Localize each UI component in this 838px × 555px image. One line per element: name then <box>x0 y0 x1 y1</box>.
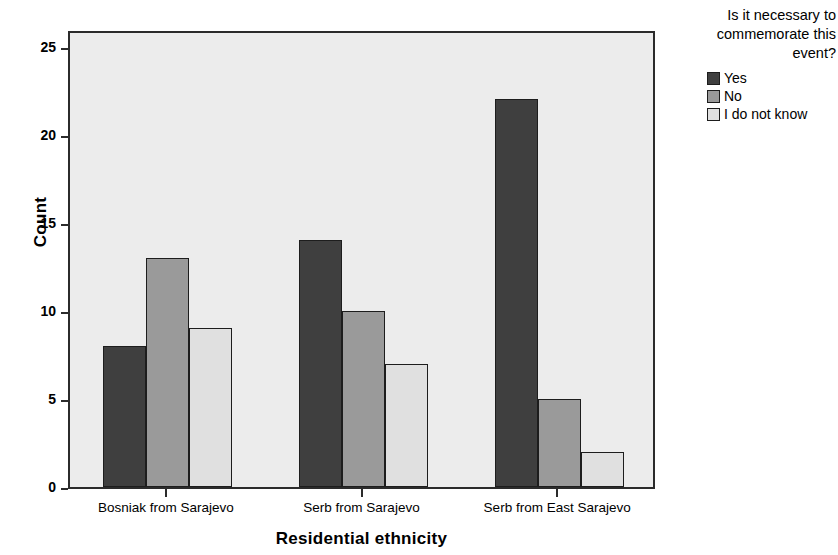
legend-items: YesNoI do not know <box>672 69 838 123</box>
legend-swatch-icon <box>707 72 720 85</box>
y-axis-tick-label: 0 <box>48 479 56 495</box>
bar <box>146 258 189 487</box>
legend-title-line: Is it necessary to <box>672 6 836 25</box>
x-axis-tick-label: Serb from Sarajevo <box>303 500 419 515</box>
y-axis-tick-label: 25 <box>40 39 56 55</box>
legend-item-label: Yes <box>724 70 747 86</box>
y-axis-tick-mark <box>61 312 68 314</box>
bar <box>385 364 428 487</box>
legend-item: No <box>707 87 838 105</box>
legend-item: Yes <box>707 69 838 87</box>
y-axis-tick-label: 10 <box>40 303 56 319</box>
legend-title: Is it necessary tocommemorate thisevent? <box>672 6 838 63</box>
legend-item-label: No <box>724 88 742 104</box>
x-axis-tick-label: Bosniak from Sarajevo <box>98 500 234 515</box>
legend-swatch-icon <box>707 108 720 121</box>
x-axis-tick-mark <box>165 489 167 497</box>
bar <box>103 346 146 487</box>
y-axis-tick-mark <box>61 136 68 138</box>
x-axis-tick-mark <box>361 489 363 497</box>
bar <box>342 311 385 487</box>
legend-swatch-icon <box>707 90 720 103</box>
legend-title-line: event? <box>672 44 836 63</box>
y-axis-tick-mark <box>61 224 68 226</box>
x-axis-tick-label: Serb from East Sarajevo <box>484 500 631 515</box>
x-axis-tick-mark <box>556 489 558 497</box>
y-axis-tick-mark <box>61 488 68 490</box>
plot-area <box>68 31 655 489</box>
legend-item-label: I do not know <box>724 106 807 122</box>
bar <box>495 99 538 487</box>
legend-title-line: commemorate this <box>672 25 836 44</box>
x-axis-title: Residential ethnicity <box>68 529 655 549</box>
y-axis-tick-label: 15 <box>40 215 56 231</box>
bar <box>538 399 581 487</box>
bar <box>189 328 232 487</box>
bar <box>299 240 342 487</box>
y-axis-tick-mark <box>61 400 68 402</box>
legend: Is it necessary tocommemorate thisevent?… <box>672 6 838 123</box>
bar <box>581 452 624 487</box>
y-axis-tick-mark <box>61 48 68 50</box>
legend-item: I do not know <box>707 105 838 123</box>
y-axis-tick-label: 5 <box>48 391 56 407</box>
y-axis-tick-label: 20 <box>40 127 56 143</box>
